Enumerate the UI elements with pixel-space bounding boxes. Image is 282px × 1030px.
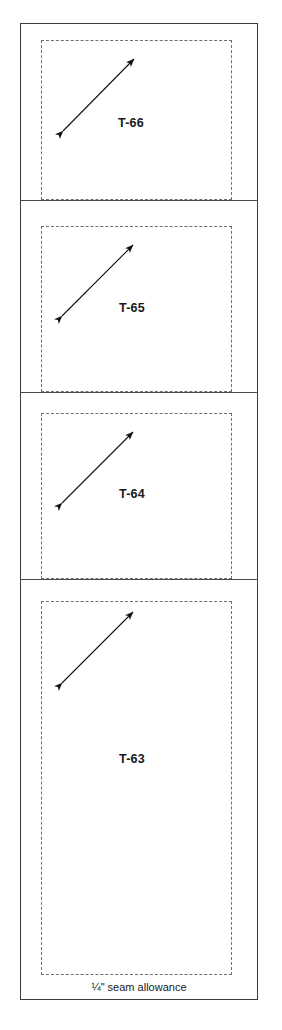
pattern-sheet: T-66T-65T-64T-63 ¼" seam allowance [0, 0, 282, 1030]
seam-allowance-note: ¼" seam allowance [20, 981, 258, 993]
seam-line-rect [41, 601, 232, 975]
piece-label: T-64 [119, 487, 145, 501]
piece-label: T-66 [118, 116, 144, 130]
piece-label: T-65 [119, 301, 145, 315]
piece-divider-line [20, 200, 258, 201]
piece-label: T-63 [119, 752, 145, 766]
piece-divider-line [20, 392, 258, 393]
piece-divider-line [20, 579, 258, 580]
